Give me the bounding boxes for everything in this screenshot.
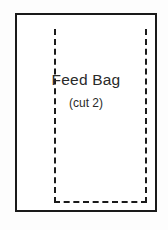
pattern-piece-name: Feed Bag xyxy=(15,72,157,88)
pattern-label-block: Feed Bag (cut 2) xyxy=(15,72,157,109)
fabric-cut-outline xyxy=(15,13,157,212)
pattern-piece-diagram: Feed Bag (cut 2) xyxy=(0,0,168,230)
stitch-line-guide xyxy=(54,29,147,203)
pattern-cut-count: (cut 2) xyxy=(15,97,157,109)
